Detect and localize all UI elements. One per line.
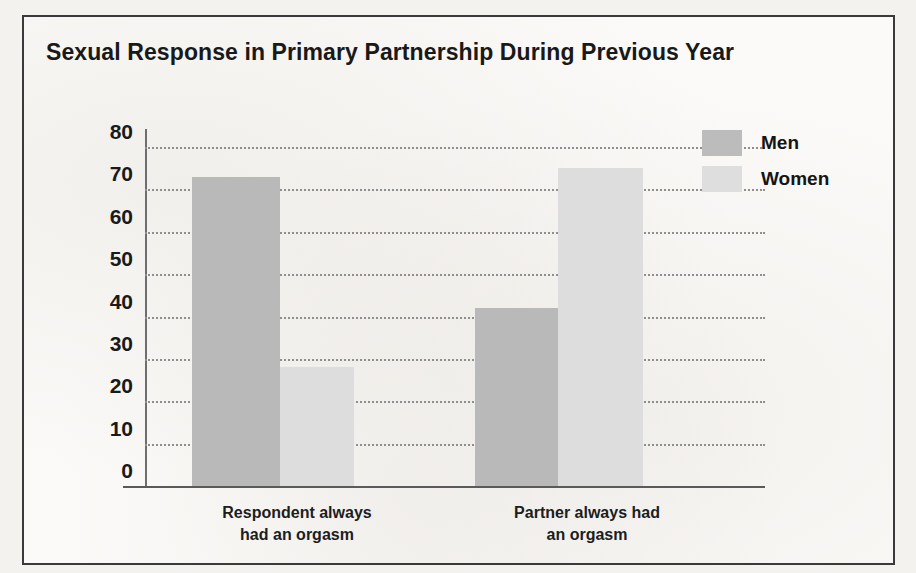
bar-women-group-1 <box>280 367 354 486</box>
bar-men-group-1 <box>192 177 280 486</box>
legend-label-men: Men <box>761 132 799 154</box>
chart-legend: Men Women <box>702 125 829 197</box>
legend-swatch-men-icon <box>702 130 742 156</box>
y-axis-tick-label: 70 <box>110 162 133 186</box>
y-axis-tick-label: 0 <box>121 459 133 483</box>
y-axis-tick-label: 50 <box>110 247 133 271</box>
legend-swatch-women-icon <box>702 166 742 192</box>
legend-item-women: Women <box>702 161 829 197</box>
legend-item-men: Men <box>702 125 829 161</box>
value-axis-line <box>145 129 147 486</box>
y-axis-tick-label: 10 <box>110 416 133 440</box>
y-axis-tick-label: 80 <box>110 120 133 144</box>
bar-women-group-2 <box>558 168 643 486</box>
category-label-line: an orgasm <box>472 524 702 546</box>
category-label-1: Respondent alwayshad an orgasm <box>182 502 412 546</box>
chart-title: Sexual Response in Primary Partnership D… <box>46 39 734 66</box>
chart-figure: Sexual Response in Primary Partnership D… <box>22 15 895 565</box>
plot-area: 01020304050607080 Respondent alwayshad a… <box>145 147 765 486</box>
y-axis-tick-label: 20 <box>110 374 133 398</box>
category-label-line: had an orgasm <box>182 524 412 546</box>
y-axis-tick-label: 60 <box>110 204 133 228</box>
category-label-line: Partner always had <box>472 502 702 524</box>
legend-label-women: Women <box>761 168 829 190</box>
bar-men-group-2 <box>475 308 558 486</box>
gridline <box>145 147 765 149</box>
category-axis-line <box>123 486 765 488</box>
category-label-2: Partner always hadan orgasm <box>472 502 702 546</box>
y-axis-tick-label: 30 <box>110 332 133 356</box>
category-label-line: Respondent always <box>182 502 412 524</box>
y-axis-tick-label: 40 <box>110 289 133 313</box>
